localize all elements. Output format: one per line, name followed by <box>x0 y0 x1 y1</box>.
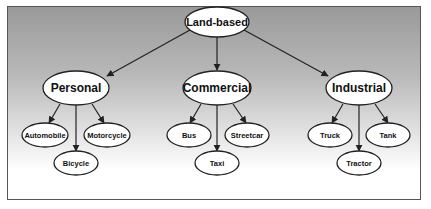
edge-commercial-streetcar <box>233 104 246 123</box>
node-tractor: Tractor <box>337 151 381 175</box>
node-truck-label: Truck <box>320 131 341 140</box>
edge-commercial-bus <box>190 104 201 123</box>
edge-industrial-truck <box>332 104 343 123</box>
node-truck: Truck <box>308 123 352 147</box>
node-commercial-label: Commercial <box>183 81 252 95</box>
node-taxi-label: Taxi <box>210 159 224 168</box>
edge-land-personal <box>107 30 190 76</box>
node-personal: Personal <box>43 71 109 105</box>
land-vehicle-hierarchy-diagram: Land-based Personal Commercial Industria… <box>0 0 431 209</box>
node-land-based-label: Land-based <box>186 16 248 28</box>
node-motorcycle: Motorcycle <box>84 123 130 147</box>
node-bus: Bus <box>167 123 211 147</box>
diagram-canvas: Land-based Personal Commercial Industria… <box>0 0 431 209</box>
node-bicycle-label: Bicycle <box>63 159 89 168</box>
node-tank-label: Tank <box>380 131 398 140</box>
node-motorcycle-label: Motorcycle <box>87 131 127 140</box>
node-taxi: Taxi <box>195 151 239 175</box>
node-bus-label: Bus <box>182 131 196 140</box>
node-automobile-label: Automobile <box>24 131 65 140</box>
node-tank: Tank <box>366 123 410 147</box>
node-personal-label: Personal <box>51 81 102 95</box>
node-industrial-label: Industrial <box>332 81 386 95</box>
node-tractor-label: Tractor <box>346 159 372 168</box>
node-industrial: Industrial <box>326 71 392 105</box>
edge-land-industrial <box>244 30 328 76</box>
node-commercial: Commercial <box>183 71 252 105</box>
edge-personal-motorcycle <box>92 104 104 123</box>
edge-industrial-tank <box>375 104 388 123</box>
node-land-based: Land-based <box>185 7 249 37</box>
node-streetcar: Streetcar <box>225 123 269 147</box>
node-automobile: Automobile <box>22 123 68 147</box>
node-bicycle: Bicycle <box>54 151 98 175</box>
edge-personal-automobile <box>49 104 60 123</box>
node-streetcar-label: Streetcar <box>231 131 264 140</box>
